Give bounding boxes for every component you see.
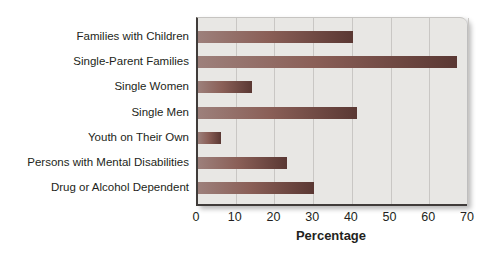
x-tick-label: 40 [344, 210, 358, 224]
bar [198, 56, 457, 68]
category-label: Drug or Alcohol Dependent [0, 180, 189, 194]
bar [198, 132, 221, 144]
gridline [429, 18, 430, 204]
x-tick-label: 70 [460, 210, 474, 224]
x-tick-label: 60 [421, 210, 435, 224]
category-label: Youth on Their Own [0, 130, 189, 144]
gridline [468, 18, 469, 204]
x-axis-title: Percentage [296, 228, 366, 243]
x-tick-label: 30 [305, 210, 319, 224]
x-tick-label: 10 [228, 210, 242, 224]
bar [198, 81, 252, 93]
category-label: Single Men [0, 105, 189, 119]
bar [198, 31, 353, 43]
x-tick-label: 50 [383, 210, 397, 224]
category-label: Single-Parent Families [0, 54, 189, 68]
gridline [391, 18, 392, 204]
bar [198, 182, 314, 194]
category-label: Families with Children [0, 29, 189, 43]
x-tick-label: 0 [193, 210, 200, 224]
bar [198, 157, 287, 169]
category-label: Single Women [0, 79, 189, 93]
category-label: Persons with Mental Disabilities [0, 155, 189, 169]
bar [198, 107, 357, 119]
x-tick-label: 20 [266, 210, 280, 224]
bar-chart: Families with ChildrenSingle-Parent Fami… [0, 0, 498, 256]
plot-area [196, 17, 467, 206]
